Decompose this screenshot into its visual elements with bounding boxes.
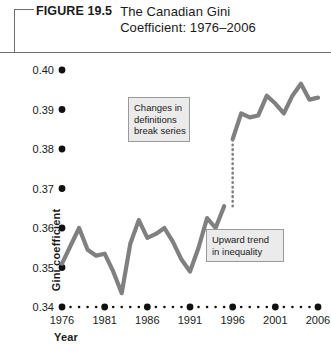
x-axis-tick-label: 2006 bbox=[306, 314, 330, 326]
x-axis-minor-dot bbox=[240, 306, 243, 309]
x-axis-tick-dot bbox=[315, 304, 322, 311]
y-axis-tick-dot bbox=[59, 146, 66, 153]
x-axis-tick-label: 1981 bbox=[92, 314, 116, 326]
x-axis-tick-label: 1991 bbox=[178, 314, 202, 326]
x-axis-minor-dot bbox=[223, 306, 226, 309]
y-axis-title: Gini coefficient bbox=[50, 190, 62, 310]
annotation-break-line-1: Changes in bbox=[134, 102, 184, 114]
x-axis-minor-dot bbox=[69, 306, 72, 309]
y-axis-tick-label: 0.39 bbox=[33, 104, 54, 116]
y-axis-tick-dot bbox=[59, 106, 66, 113]
x-axis-minor-dot bbox=[163, 306, 166, 309]
x-axis-minor-dot bbox=[248, 306, 251, 309]
figure-header: FIGURE 19.5 The Canadian Gini Coefficien… bbox=[36, 4, 326, 36]
figure-root: FIGURE 19.5 The Canadian Gini Coefficien… bbox=[0, 0, 331, 351]
corner-bracket-vertical bbox=[14, 9, 15, 53]
x-axis-minor-dot bbox=[172, 306, 175, 309]
x-axis-minor-dot bbox=[197, 306, 200, 309]
figure-title-line-1: The Canadian Gini bbox=[120, 4, 256, 20]
figure-title-line-2: Coefficient: 1976–2006 bbox=[120, 20, 256, 36]
annotation-break-line-2: definitions bbox=[134, 114, 184, 126]
x-axis-tick-label: 1976 bbox=[50, 314, 74, 326]
data-line-segment-2 bbox=[233, 84, 318, 139]
x-axis-minor-dot bbox=[257, 306, 260, 309]
x-axis-tick-label: 1996 bbox=[220, 314, 244, 326]
x-axis-minor-dot bbox=[180, 306, 183, 309]
x-axis-minor-dot bbox=[86, 306, 89, 309]
x-axis-title: Year bbox=[54, 331, 79, 343]
x-axis-minor-dot bbox=[120, 306, 123, 309]
x-axis-tick-dot bbox=[272, 304, 279, 311]
y-axis-tick-label: 0.40 bbox=[33, 64, 54, 76]
x-axis-minor-dot bbox=[206, 306, 209, 309]
y-axis-tick-dot bbox=[59, 67, 66, 74]
figure-label: FIGURE 19.5 bbox=[36, 4, 112, 18]
x-axis-minor-dot bbox=[112, 306, 115, 309]
x-axis-tick-dot bbox=[144, 304, 151, 311]
x-axis-minor-dot bbox=[138, 306, 141, 309]
x-axis-minor-dot bbox=[95, 306, 98, 309]
x-axis-tick-label: 1986 bbox=[135, 314, 159, 326]
x-axis-tick-dot bbox=[187, 304, 194, 311]
annotation-break-series: Changes in definitions break series bbox=[128, 97, 190, 142]
x-axis-tick-label: 2001 bbox=[263, 314, 287, 326]
figure-title: The Canadian Gini Coefficient: 1976–2006 bbox=[120, 4, 256, 36]
x-axis-tick-dot bbox=[101, 304, 108, 311]
x-axis-minor-dot bbox=[300, 306, 303, 309]
x-axis-minor-dot bbox=[291, 306, 294, 309]
y-axis-tick-label: 0.38 bbox=[33, 143, 54, 155]
annotation-break-line-3: break series bbox=[134, 125, 184, 137]
x-axis-minor-dot bbox=[283, 306, 286, 309]
annotation-trend-line-2: in inequality bbox=[212, 246, 278, 258]
x-axis-minor-dot bbox=[78, 306, 81, 309]
x-axis-minor-dot bbox=[266, 306, 269, 309]
x-axis-minor-dot bbox=[214, 306, 217, 309]
x-axis-minor-dot bbox=[308, 306, 311, 309]
chart-plot-area: 0.340.350.360.370.380.390.40197619811986… bbox=[0, 52, 331, 351]
data-line-segment-1 bbox=[62, 206, 224, 293]
x-axis-minor-dot bbox=[155, 306, 158, 309]
annotation-upward-trend: Upward trend in inequality bbox=[206, 229, 284, 262]
annotation-trend-line-1: Upward trend bbox=[212, 234, 278, 246]
x-axis-tick-dot bbox=[229, 304, 236, 311]
x-axis-minor-dot bbox=[129, 306, 132, 309]
corner-bracket-horizontal bbox=[14, 9, 34, 10]
